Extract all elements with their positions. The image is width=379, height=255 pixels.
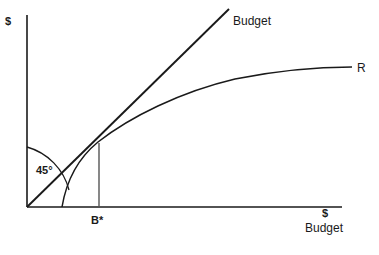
budget-line (27, 9, 229, 207)
x-axis-label: Budget (305, 222, 343, 234)
y-axis-label: $ (5, 16, 11, 27)
revenue-curve-label: R (357, 62, 366, 74)
budget-revenue-diagram: $ Budget R 45° B* $ Budget (0, 0, 379, 255)
revenue-curve (62, 67, 352, 207)
optimum-budget-label: B* (91, 215, 103, 226)
x-axis-currency-label: $ (322, 208, 328, 219)
angle-label: 45° (36, 165, 53, 176)
budget-line-label: Budget (233, 15, 271, 27)
